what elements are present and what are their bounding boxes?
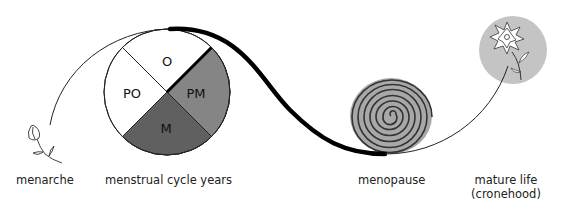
label-menopause: menopause: [358, 173, 425, 187]
segment-label-po: PO: [123, 86, 141, 101]
segment-label-pm: PM: [186, 86, 205, 101]
flower-bud-icon: [28, 125, 62, 163]
label-mature-life: mature life (cronehood): [466, 173, 546, 201]
spiral-icon: [350, 78, 432, 154]
blooming-flower-icon: [479, 16, 547, 84]
label-menstrual-cycle-years: menstrual cycle years: [105, 173, 232, 187]
segment-label-m: M: [160, 121, 171, 136]
cycle-pie-icon: O PM M PO: [104, 29, 230, 155]
label-menarche: menarche: [16, 173, 74, 187]
segment-label-o: O: [162, 54, 172, 69]
label-mature-life-line2: (cronehood): [466, 187, 546, 201]
label-mature-life-line1: mature life: [466, 173, 546, 187]
